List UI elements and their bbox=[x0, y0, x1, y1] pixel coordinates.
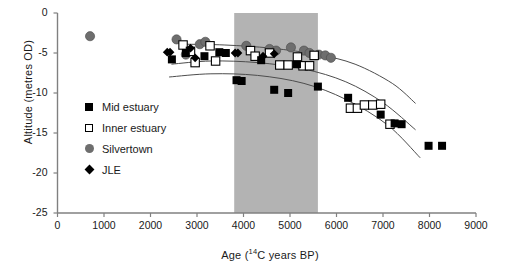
data-point bbox=[284, 89, 292, 97]
data-point bbox=[398, 120, 406, 128]
data-point bbox=[391, 119, 399, 127]
x-tick-label: 7000 bbox=[363, 219, 403, 231]
data-point bbox=[376, 100, 384, 108]
x-axis-title: Age (14C years BP) bbox=[120, 247, 420, 261]
legend-item-inner-estuary: Inner estuary bbox=[78, 117, 166, 138]
chart-legend: Mid estuaryInner estuarySilvertownJLE bbox=[78, 96, 166, 180]
legend-item-jle: JLE bbox=[78, 159, 166, 180]
legend-label: Mid estuary bbox=[100, 101, 159, 113]
legend-swatch bbox=[78, 124, 100, 132]
x-tick-label: 0 bbox=[38, 219, 78, 231]
data-point bbox=[360, 101, 368, 109]
data-point bbox=[222, 49, 230, 57]
x-tick-label: 3000 bbox=[177, 219, 217, 231]
x-tick-label: 9000 bbox=[456, 219, 496, 231]
chart-figure: 0-5-10-15-20-250100020003000400050006000… bbox=[0, 0, 506, 273]
data-point bbox=[284, 61, 292, 69]
legend-item-silvertown: Silvertown bbox=[78, 138, 166, 159]
data-point bbox=[369, 101, 377, 109]
data-point bbox=[326, 53, 335, 62]
x-tick-label: 1000 bbox=[84, 219, 124, 231]
y-axis-title: Altitude (metres OD) bbox=[22, 12, 34, 172]
data-point bbox=[211, 57, 219, 65]
data-point bbox=[276, 61, 284, 69]
x-axis-title-prefix: Age ( bbox=[221, 249, 248, 261]
legend-label: JLE bbox=[100, 164, 121, 176]
data-point bbox=[85, 32, 94, 41]
legend-label: Inner estuary bbox=[100, 122, 166, 134]
data-point bbox=[293, 60, 301, 68]
data-point bbox=[377, 111, 385, 119]
data-point bbox=[425, 142, 433, 150]
legend-label: Silvertown bbox=[100, 143, 153, 155]
legend-swatch bbox=[78, 103, 100, 111]
data-point bbox=[314, 83, 322, 91]
data-point bbox=[305, 62, 313, 70]
data-point bbox=[293, 53, 301, 61]
legend-swatch bbox=[78, 166, 100, 173]
data-point bbox=[344, 94, 352, 102]
x-tick-label: 6000 bbox=[317, 219, 357, 231]
data-point bbox=[206, 42, 214, 50]
filled-square-icon bbox=[85, 103, 93, 111]
data-point bbox=[238, 77, 246, 85]
scatter-plot-canvas bbox=[0, 0, 506, 273]
x-axis-title-suffix: C years BP) bbox=[257, 249, 319, 261]
open-square-icon bbox=[85, 124, 93, 132]
filled-diamond-icon bbox=[84, 165, 94, 175]
data-point bbox=[286, 43, 295, 52]
data-point bbox=[438, 142, 446, 150]
x-tick-label: 4000 bbox=[224, 219, 264, 231]
data-point bbox=[200, 52, 208, 60]
x-tick-label: 2000 bbox=[131, 219, 171, 231]
legend-swatch bbox=[78, 144, 100, 153]
y-tick-label: -25 bbox=[18, 206, 48, 218]
data-point bbox=[270, 86, 278, 94]
data-point bbox=[168, 55, 176, 63]
x-tick-label: 5000 bbox=[270, 219, 310, 231]
legend-item-mid-estuary: Mid estuary bbox=[78, 96, 166, 117]
x-tick-label: 8000 bbox=[410, 219, 450, 231]
data-point bbox=[310, 51, 318, 59]
x-axis-title-superscript: 14 bbox=[249, 247, 258, 256]
filled-circle-icon bbox=[85, 144, 94, 153]
